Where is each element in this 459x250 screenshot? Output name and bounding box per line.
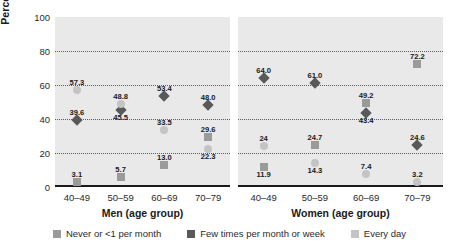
gridline-40 [238, 119, 443, 120]
circle-marker-icon [117, 100, 125, 108]
data-point: 5.7 [117, 173, 125, 181]
x-axis-line [238, 185, 443, 187]
circle-marker-icon [362, 170, 370, 178]
y-axis-tick-100: 100 [20, 12, 50, 23]
x-axis-tick-men-3: 70–79 [195, 192, 221, 203]
data-point: 53.4 [160, 92, 168, 100]
y-axis-tick-60: 60 [20, 80, 50, 91]
data-point: 14.3 [311, 159, 319, 167]
data-point: 24.7 [311, 141, 319, 149]
data-point: 64.0 [260, 74, 268, 82]
x-axis-tick-women-0: 40–49 [250, 192, 276, 203]
data-point: 39.6 [73, 116, 81, 124]
data-point-label: 48.0 [201, 93, 216, 102]
data-point-label: 33.5 [157, 118, 172, 127]
data-point: 48.8 [117, 100, 125, 108]
x-axis-tick-women-2: 60–69 [353, 192, 379, 203]
x-axis-tick-men-0: 40–49 [64, 192, 90, 203]
data-point-label: 5.7 [115, 165, 126, 174]
legend-item-2[interactable]: Every day [351, 228, 406, 239]
data-point: 3.2 [413, 178, 421, 186]
data-point: 33.5 [160, 126, 168, 134]
data-point: 57.3 [73, 86, 81, 94]
legend-swatch-icon [351, 230, 359, 238]
data-point-label: 14.3 [307, 166, 322, 175]
data-point-label: 43.4 [359, 116, 374, 125]
x-axis-title-women: Women (age group) [238, 207, 443, 219]
data-point-label: 24 [259, 134, 267, 143]
gridline-80 [55, 51, 230, 52]
data-point: 3.1 [73, 178, 81, 186]
circle-marker-icon [73, 86, 81, 94]
data-point-label: 48.8 [113, 92, 128, 101]
legend-label: Never or <1 per month [66, 228, 161, 239]
legend-label: Few times per month or week [200, 228, 325, 239]
panel-men: 3.15.713.029.639.645.553.448.057.348.833… [55, 17, 230, 187]
x-axis-tick-men-1: 50–59 [107, 192, 133, 203]
circle-marker-icon [413, 178, 421, 186]
square-marker-icon [204, 133, 212, 141]
x-axis-tick-women-1: 50–59 [302, 192, 328, 203]
circle-marker-icon [160, 126, 168, 134]
data-point-label: 3.1 [72, 170, 83, 179]
y-axis-tick-0: 0 [20, 182, 50, 193]
x-axis-tick-women-3: 70–79 [404, 192, 430, 203]
y-axis-tick-40: 40 [20, 114, 50, 125]
data-point-label: 7.4 [361, 162, 372, 171]
gridline-20 [238, 153, 443, 154]
chart-figure: Percentage 020406080100 3.15.713.029.639… [0, 0, 459, 250]
chart-legend: Never or <1 per monthFew times per month… [0, 228, 459, 239]
legend-item-0[interactable]: Never or <1 per month [53, 228, 161, 239]
data-point-label: 57.3 [69, 78, 84, 87]
data-point: 22.3 [204, 145, 212, 153]
circle-marker-icon [260, 142, 268, 150]
data-point-label: 72.2 [410, 52, 425, 61]
data-point-label: 24.6 [410, 133, 425, 142]
data-point-label: 53.4 [157, 84, 172, 93]
legend-swatch-icon [187, 230, 195, 238]
x-axis-line [55, 185, 230, 187]
y-axis-tick-20: 20 [20, 148, 50, 159]
legend-label: Every day [364, 228, 406, 239]
legend-swatch-icon [53, 230, 61, 238]
data-point-label: 3.2 [412, 170, 423, 179]
square-marker-icon [362, 99, 370, 107]
square-marker-icon [117, 173, 125, 181]
square-marker-icon [311, 141, 319, 149]
data-point: 72.2 [413, 60, 421, 68]
data-point-label: 24.7 [307, 133, 322, 142]
data-point: 11.9 [260, 163, 268, 171]
data-point: 43.4 [362, 109, 370, 117]
y-axis-tick-80: 80 [20, 46, 50, 57]
square-marker-icon [160, 161, 168, 169]
data-point: 29.6 [204, 133, 212, 141]
square-marker-icon [73, 178, 81, 186]
legend-item-1[interactable]: Few times per month or week [187, 228, 325, 239]
panel-women: 11.924.749.272.264.061.043.424.62414.37.… [238, 17, 443, 187]
data-point-label: 11.9 [256, 170, 270, 179]
data-point: 24 [260, 142, 268, 150]
data-point-label: 22.3 [201, 152, 216, 161]
data-point-label: 64.0 [256, 66, 271, 75]
data-point-label: 13.0 [157, 153, 172, 162]
data-point-label: 49.2 [359, 91, 374, 100]
data-point-label: 39.6 [69, 108, 84, 117]
x-axis-title-men: Men (age group) [55, 207, 230, 219]
data-point: 7.4 [362, 170, 370, 178]
data-point-label: 45.5 [113, 113, 128, 122]
data-point: 24.6 [413, 141, 421, 149]
data-point-label: 61.0 [307, 71, 322, 80]
data-point: 48.0 [204, 101, 212, 109]
gridline-60 [238, 85, 443, 86]
data-point-label: 29.6 [201, 125, 216, 134]
x-axis-tick-men-2: 60–69 [151, 192, 177, 203]
square-marker-icon [413, 60, 421, 68]
y-axis-title: Percentage [0, 0, 11, 56]
data-point: 61.0 [311, 79, 319, 87]
data-point: 13.0 [160, 161, 168, 169]
data-point: 49.2 [362, 99, 370, 107]
